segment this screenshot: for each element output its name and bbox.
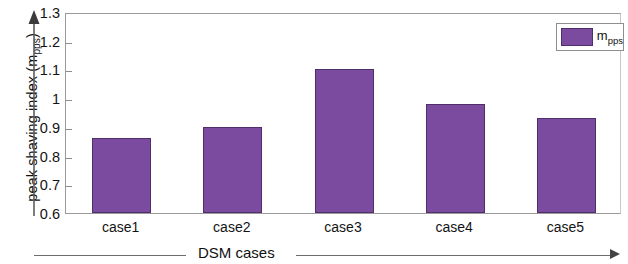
y-tick-mark — [66, 129, 72, 130]
bar-chart-figure: peak shaving index (mpps) 0.60.70.80.911… — [0, 0, 628, 264]
bar-case1[interactable] — [92, 138, 151, 213]
bar-case4[interactable] — [426, 104, 485, 213]
x-tick-label-case5: case5 — [547, 219, 584, 235]
bar-case5[interactable] — [537, 118, 596, 213]
y-tick-mark — [66, 71, 72, 72]
y-tick-mark — [66, 186, 72, 187]
x-tick-label-case2: case2 — [213, 219, 250, 235]
y-axis-tick-labels: 0.60.70.80.911.11.21.3 — [28, 0, 60, 264]
legend-label-main: m — [597, 28, 608, 43]
y-tick-label: 0.8 — [30, 149, 60, 165]
y-tick-label: 1.2 — [30, 34, 60, 50]
y-tick-label: 1.1 — [30, 62, 60, 78]
y-tick-label: 0.6 — [30, 206, 60, 222]
legend-swatch-m-pps — [561, 28, 593, 46]
y-tick-label: 1.3 — [30, 5, 60, 21]
bar-case2[interactable] — [203, 127, 262, 213]
x-axis-arrow-row: DSM cases — [34, 244, 624, 264]
y-tick-label: 1 — [30, 91, 60, 107]
x-axis-line-left — [34, 255, 186, 256]
y-tick-label: 0.9 — [30, 120, 60, 136]
y-tick-label: 0.7 — [30, 177, 60, 193]
x-tick-label-case4: case4 — [436, 219, 473, 235]
y-tick-mark — [66, 158, 72, 159]
x-tick-label-case1: case1 — [102, 219, 139, 235]
x-tick-label-case3: case3 — [324, 219, 361, 235]
x-axis-line-right — [296, 255, 614, 256]
y-tick-mark — [66, 100, 72, 101]
x-axis-arrow-head-icon — [610, 249, 620, 259]
bar-case3[interactable] — [315, 69, 374, 213]
plot-area — [65, 13, 621, 214]
legend-label-m-pps: mpps — [597, 28, 623, 46]
legend-label-subscript: pps — [608, 35, 623, 46]
legend[interactable]: mpps — [556, 23, 624, 51]
y-tick-mark — [66, 43, 72, 44]
x-axis-label: DSM cases — [194, 244, 279, 261]
